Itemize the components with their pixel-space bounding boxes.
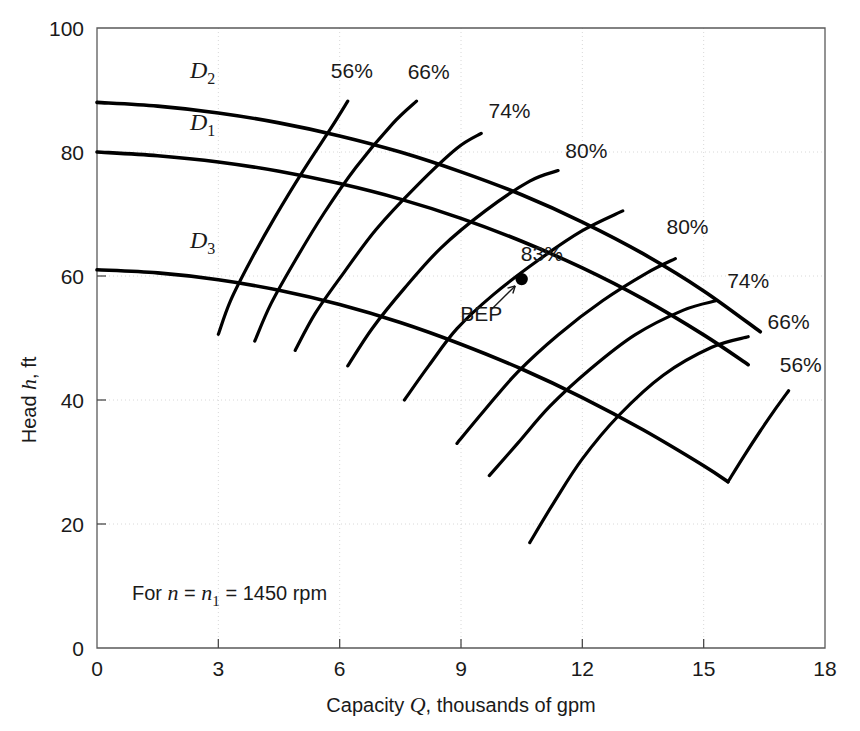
- efficiency-label: 66%: [768, 310, 810, 333]
- y-tick-label: 40: [61, 389, 84, 412]
- y-tick-label: 20: [61, 513, 84, 536]
- x-tick-label: 12: [571, 657, 594, 680]
- bep-point-marker: [515, 273, 527, 285]
- y-tick-label: 100: [49, 17, 84, 40]
- efficiency-label: 74%: [489, 99, 531, 122]
- y-axis-title: Head h, ft: [16, 356, 41, 443]
- x-tick-label: 0: [91, 657, 103, 680]
- x-tick-label: 3: [212, 657, 224, 680]
- efficiency-label: 83%: [521, 242, 563, 265]
- efficiency-label: 74%: [727, 269, 769, 292]
- bep-annotation-label: BEP: [460, 302, 502, 325]
- x-tick-label: 6: [334, 657, 346, 680]
- x-tick-label: 15: [692, 657, 715, 680]
- efficiency-label: 80%: [565, 139, 607, 162]
- efficiency-label: 80%: [666, 215, 708, 238]
- pump-performance-chart: 0369121518020406080100 56%66%74%80%83%80…: [0, 0, 860, 731]
- efficiency-label: 56%: [780, 353, 822, 376]
- x-tick-label: 9: [455, 657, 467, 680]
- y-tick-label: 60: [61, 265, 84, 288]
- efficiency-label: 66%: [408, 60, 450, 83]
- y-tick-label: 0: [72, 637, 84, 660]
- chart-canvas: 0369121518020406080100 56%66%74%80%83%80…: [0, 0, 860, 731]
- x-axis-title: Capacity Q, thousands of gpm: [326, 692, 595, 717]
- y-tick-label: 80: [61, 141, 84, 164]
- x-tick-label: 18: [813, 657, 836, 680]
- efficiency-label: 56%: [331, 59, 373, 82]
